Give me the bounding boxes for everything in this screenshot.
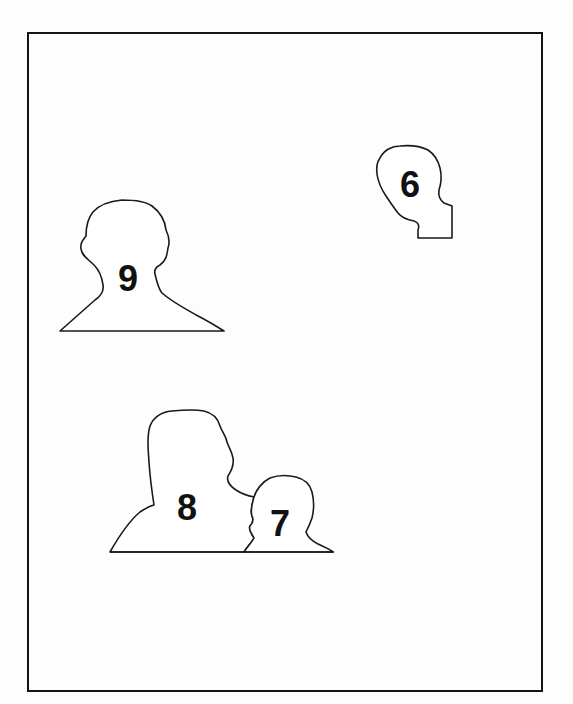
document-page: 6 9 8 7 [0, 0, 573, 704]
silhouette-9 [60, 200, 224, 331]
label-6: 6 [400, 167, 420, 203]
label-8: 8 [177, 490, 197, 526]
label-7: 7 [270, 506, 290, 542]
silhouette-canvas [0, 0, 573, 704]
silhouette-8 [110, 410, 254, 552]
label-9: 9 [118, 261, 138, 297]
